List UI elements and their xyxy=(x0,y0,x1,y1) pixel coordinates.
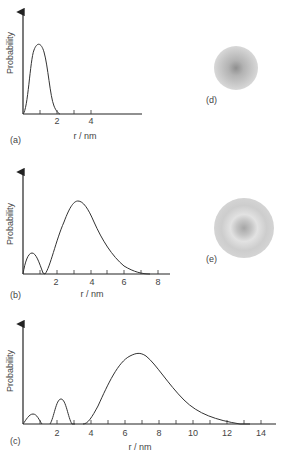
probability-curve-a xyxy=(23,44,60,114)
x-axis-label: r / nm xyxy=(73,131,96,141)
chart-c: 2 4 6 8 10 12 14 r / nm Probability (c) xyxy=(5,324,276,452)
x-axis-label: r / nm xyxy=(80,289,103,299)
probability-curve-c xyxy=(23,353,250,424)
tick-label: 4 xyxy=(88,428,93,438)
panel-label-b: (b) xyxy=(10,290,21,300)
chart-b: 2 4 6 8 r / nm Probability (b) xyxy=(5,172,170,300)
orbital-d: (d) xyxy=(206,46,258,105)
tick-label: 6 xyxy=(121,277,126,287)
tick-label: 4 xyxy=(89,277,94,287)
tick-label: 2 xyxy=(54,116,59,126)
y-axis-label: Probability xyxy=(5,202,15,245)
panel-label-e: (e) xyxy=(206,254,217,264)
tick-label: 14 xyxy=(256,428,266,438)
tick-label: 8 xyxy=(155,277,160,287)
orbital-2s-image xyxy=(214,198,274,258)
tick-label: 12 xyxy=(222,428,232,438)
probability-curve-b xyxy=(23,201,150,274)
tick-label: 4 xyxy=(88,116,93,126)
y-axis-label: Probability xyxy=(5,31,15,74)
orbital-e: (e) xyxy=(206,198,274,264)
panel-label-a: (a) xyxy=(10,135,21,145)
tick-label: 6 xyxy=(122,428,127,438)
y-axis-label: Probability xyxy=(5,349,15,392)
figure: 2 4 r / nm Probability (a) 2 4 6 8 r / n… xyxy=(0,0,282,459)
tick-label: 2 xyxy=(53,277,58,287)
x-axis-label: r / nm xyxy=(128,442,151,452)
orbital-1s-image xyxy=(214,46,258,90)
tick-label: 2 xyxy=(54,428,59,438)
panel-label-d: (d) xyxy=(206,95,217,105)
panel-label-c: (c) xyxy=(10,436,21,446)
tick-label: 8 xyxy=(156,428,161,438)
chart-a: 2 4 r / nm Probability (a) xyxy=(5,12,142,145)
tick-label: 10 xyxy=(188,428,198,438)
